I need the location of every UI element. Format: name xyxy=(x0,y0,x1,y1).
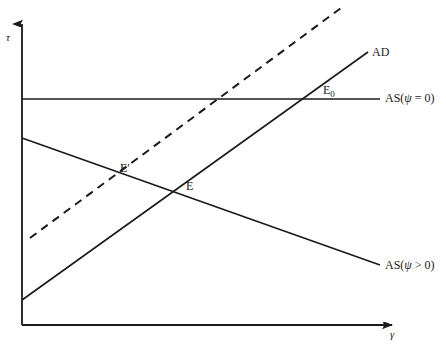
economics-diagram: τ γ AD AS(ψ = 0) AS(ψ > 0) E0 E E′ xyxy=(0,0,446,344)
point-label-e-prime: E′ xyxy=(120,162,130,174)
as-positive-prefix: AS( xyxy=(385,258,404,272)
as-zero-prefix: AS( xyxy=(385,91,404,105)
curve-ad xyxy=(22,52,368,300)
as-positive-psi-symbol: ψ xyxy=(404,258,411,272)
as-zero-psi-symbol: ψ xyxy=(404,91,411,105)
point-label-e: E xyxy=(186,180,193,192)
x-axis-label: γ xyxy=(390,329,394,340)
curve-as-positive xyxy=(22,138,380,265)
point-e0-subscript: 0 xyxy=(330,89,335,99)
point-label-e0: E0 xyxy=(323,84,335,99)
as-zero-relation: = 0) xyxy=(412,91,435,105)
y-axis-label: τ xyxy=(6,32,10,43)
as-positive-relation: > 0) xyxy=(412,258,435,272)
curve-label-as-positive: AS(ψ > 0) xyxy=(385,259,435,271)
curve-label-as-zero: AS(ψ = 0) xyxy=(385,92,435,104)
curve-label-ad: AD xyxy=(372,46,389,58)
curve-ad-shifted-dashed xyxy=(30,5,345,238)
